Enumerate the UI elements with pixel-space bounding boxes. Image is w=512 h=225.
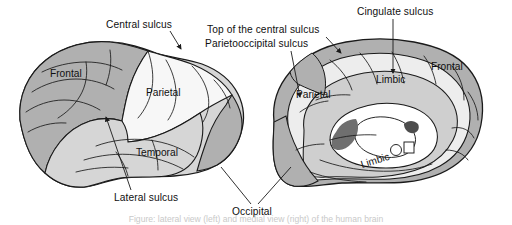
leader-occipital-left bbox=[221, 167, 251, 204]
caption-fragment: Figure: lateral view (left) and medial v… bbox=[0, 214, 512, 225]
leader-occipital-right bbox=[258, 167, 291, 204]
callout-lateral-sulcus: Lateral sulcus bbox=[114, 192, 178, 203]
callout-central-sulcus: Central sulcus bbox=[106, 19, 172, 30]
medial-parietal-label: Parietal bbox=[296, 89, 331, 100]
lateral-parietal-label: Parietal bbox=[146, 87, 181, 98]
callout-top-of-central-sulcus: Top of the central sulcus bbox=[207, 24, 319, 35]
ventricle-circle bbox=[391, 145, 402, 156]
brain-diagram-svg: Frontal Parietal Temporal bbox=[0, 0, 512, 225]
brainstem-block bbox=[404, 142, 414, 153]
lateral-view-group: Frontal Parietal Temporal bbox=[20, 42, 244, 188]
callout-parietooccipital-sulcus: Parietooccipital sulcus bbox=[205, 38, 308, 49]
leader-central-sulcus bbox=[170, 31, 181, 49]
medial-limbic-upper-label: Limbic bbox=[376, 74, 405, 85]
lateral-frontal-label: Frontal bbox=[50, 68, 82, 79]
callout-cingulate-sulcus: Cingulate sulcus bbox=[357, 6, 433, 17]
medial-frontal-label: Frontal bbox=[431, 61, 463, 72]
brain-anatomy-figure: Frontal Parietal Temporal bbox=[0, 0, 512, 225]
medial-view-group: Frontal Parietal Limbic Limbic bbox=[273, 39, 482, 187]
lateral-temporal-label: Temporal bbox=[136, 147, 178, 158]
